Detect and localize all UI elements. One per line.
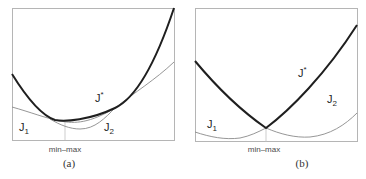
panel-b-curve-jstar [195,25,357,128]
panel-a: J1 J2 J* min–max (a) [12,8,175,170]
panel-a-frame [13,9,175,141]
panel-b-frame [196,9,358,142]
panel-b-label-j2: J2 [327,93,338,108]
figure: J1 J2 J* min–max (a) J1 J2 J* min–max (b… [0,0,366,179]
panel-a-label-jstar: J* [95,90,104,104]
panel-a-curve-j2 [50,62,174,129]
panel-b-minmax-label: min–max [248,145,280,154]
panel-a-minmax-label: min–max [49,145,81,154]
panel-a-label-j1: J1 [19,121,30,136]
panel-b-label-jstar: J* [298,65,307,79]
panel-a-curve-jstar [12,8,174,121]
panel-b-caption: (b) [296,157,309,170]
panel-b-curve-j1 [195,128,266,139]
panel-b: J1 J2 J* min–max (b) [195,9,358,171]
panel-b-label-j1: J1 [207,118,218,133]
panel-a-label-j2: J2 [104,121,115,136]
panel-a-caption: (a) [63,157,76,170]
